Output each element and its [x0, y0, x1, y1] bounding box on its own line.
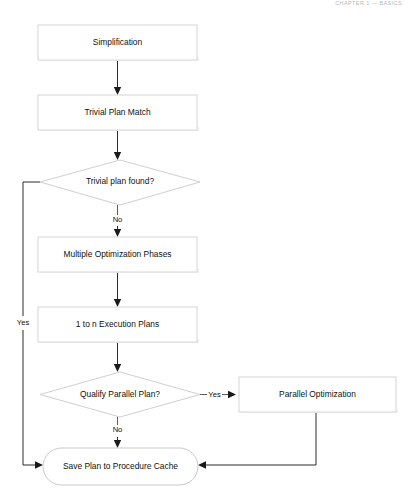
edge-label-yes-trivial-text: Yes — [17, 318, 30, 327]
node-label-trivial-plan-match: Trivial Plan Match — [84, 107, 151, 117]
node-save-plan-to-procedure-cache[interactable]: Save Plan to Procedure Cache — [43, 448, 198, 485]
edge-parallel-opt-to-save-plan — [198, 412, 316, 469]
node-trivial-plan-found-decision[interactable]: Trivial plan found? — [40, 160, 200, 205]
edge-decision-no-to-multi-phases: No — [113, 205, 123, 237]
edge-label-no-trivial: No — [113, 215, 123, 224]
flowchart-diagram: CHAPTER 1 — BASICS No Yes Yes — [0, 0, 410, 504]
edge-exec-plans-to-qualify-decision — [114, 342, 121, 372]
node-execution-plans[interactable]: 1 to n Execution Plans — [38, 307, 199, 343]
node-label-trivial-plan-found: Trivial plan found? — [86, 176, 154, 186]
node-label-simplification: Simplification — [93, 37, 143, 47]
edge-trivial-match-to-decision — [114, 130, 121, 160]
node-trivial-plan-match[interactable]: Trivial Plan Match — [38, 95, 199, 131]
node-label-qualify-parallel-plan: Qualify Parallel Plan? — [80, 389, 160, 399]
node-label-parallel-optimization: Parallel Optimization — [279, 389, 356, 399]
edge-qualify-no-to-save-plan: No — [113, 417, 123, 448]
node-label-execution-plans: 1 to n Execution Plans — [76, 319, 159, 329]
edge-label-yes-parallel: Yes — [208, 390, 221, 399]
node-multiple-optimization-phases[interactable]: Multiple Optimization Phases — [38, 237, 199, 273]
node-label-multiple-optimization-phases: Multiple Optimization Phases — [64, 249, 172, 259]
node-label-save-plan: Save Plan to Procedure Cache — [63, 461, 178, 471]
edge-label-no-parallel: No — [113, 425, 123, 434]
node-qualify-parallel-plan-decision[interactable]: Qualify Parallel Plan? — [40, 372, 200, 417]
flowchart-canvas: No Yes Yes Yes — [0, 0, 410, 504]
edge-qualify-yes-to-parallel-opt: Yes — [200, 390, 236, 399]
edge-simplification-to-trivial-match — [114, 60, 121, 95]
edge-multi-phases-to-exec-plans — [114, 272, 121, 307]
node-simplification[interactable]: Simplification — [38, 25, 199, 61]
node-parallel-optimization[interactable]: Parallel Optimization — [239, 377, 398, 413]
